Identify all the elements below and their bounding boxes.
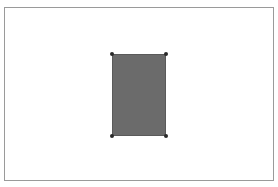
resize-handle-bottom-right[interactable]	[164, 134, 168, 138]
resize-handle-top-left[interactable]	[110, 52, 114, 56]
resize-handle-top-right[interactable]	[164, 52, 168, 56]
resize-handle-bottom-left[interactable]	[110, 134, 114, 138]
selected-rectangle-shape[interactable]	[112, 54, 166, 136]
